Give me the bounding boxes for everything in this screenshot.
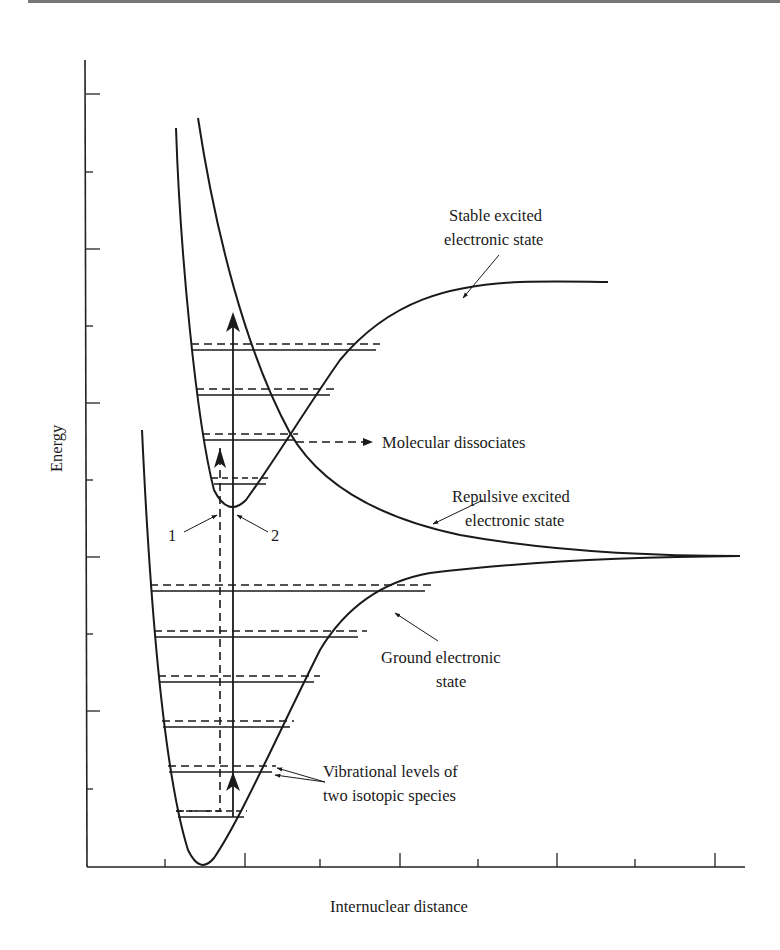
vibrational-pointer-b [275,775,325,782]
ground-vibrational-levels [150,585,432,817]
ground-state-label-line1: Ground electronic [381,648,501,667]
transition-1-pointer [184,515,217,532]
stable-excited-pointer [463,255,499,298]
stable-excited-label-line1: Stable excited [449,206,543,225]
vibrational-label-line1: Vibrational levels of [323,762,458,781]
x-axis-label: Internuclear distance [330,897,468,916]
vibrational-pointer-a [277,768,325,782]
transition-2-pointer [237,515,268,532]
y-axis [85,60,87,867]
axes [85,60,745,867]
repulsive-excited-label-line2: electronic state [465,511,564,530]
transition-1-label: 1 [168,526,176,545]
transition-1-arrow [176,448,226,811]
ground-state-pointer [395,613,438,641]
ground-state-label-line2: state [436,672,466,691]
stable-excited-label-line2: electronic state [444,230,543,249]
y-axis-label: Energy [47,424,66,472]
potential-energy-diagram: Stable excited electronic state Molecula… [0,0,780,950]
label-pointers [184,255,499,782]
x-axis-ticks [165,853,715,867]
transition-2-label: 2 [271,526,279,545]
dissociation-label: Molecular dissociates [382,433,525,452]
vibrational-label-line2: two isotopic species [323,786,456,805]
y-axis-ticks [86,94,100,789]
transition-2-arrow [226,312,240,817]
repulsive-excited-label-line1: Repulsive excited [452,487,571,506]
